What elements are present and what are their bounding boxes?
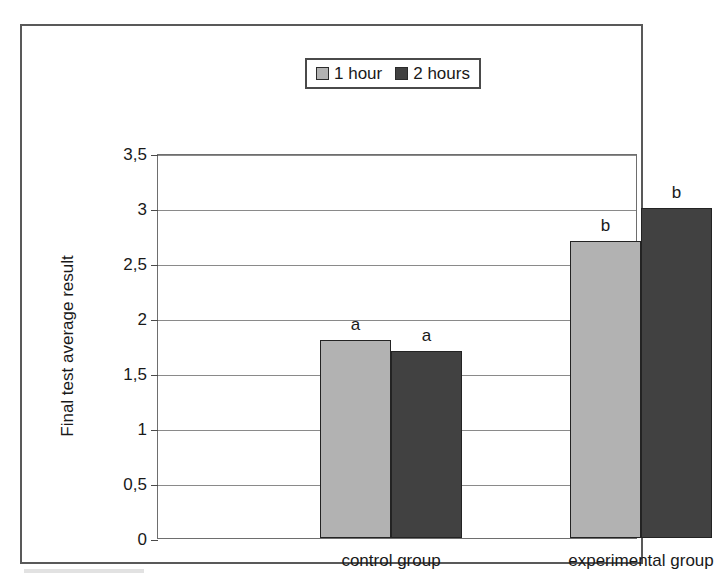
legend-entry-2-hours: 2 hours	[395, 65, 470, 82]
y-axis-tick	[151, 485, 158, 486]
gridline	[158, 155, 636, 156]
y-axis-tick-label: 0,5	[123, 475, 147, 495]
y-axis-tick-label: 1	[138, 420, 147, 440]
bar-annotation: a	[351, 315, 360, 335]
y-axis-tick-label: 2,5	[123, 255, 147, 275]
x-axis-category-label: experimental group	[568, 551, 714, 571]
plot-area: 00,511,522,533,5aacontrol groupbbexperim…	[157, 154, 637, 539]
gridline	[158, 210, 636, 211]
bar-annotation: a	[422, 326, 431, 346]
bar-annotation: b	[672, 183, 681, 203]
y-axis-tick	[151, 375, 158, 376]
y-axis-tick-label: 0	[138, 530, 147, 550]
scan-artifact	[24, 569, 144, 573]
y-axis-tick-label: 1,5	[123, 365, 147, 385]
y-axis-tick	[151, 210, 158, 211]
bar-experimental-group-2-hours	[641, 208, 712, 538]
x-axis-category-label: control group	[341, 551, 440, 571]
legend-swatch-1-hour	[316, 67, 329, 80]
y-axis-title: Final test average result	[58, 216, 78, 476]
gridline	[158, 265, 636, 266]
y-axis-tick	[151, 265, 158, 266]
y-axis-tick	[151, 540, 158, 541]
bar-control-group-1-hour	[320, 340, 391, 538]
legend-swatch-2-hours	[395, 67, 408, 80]
y-axis-tick	[151, 430, 158, 431]
legend-entry-1-hour: 1 hour	[316, 65, 382, 82]
chart-legend: 1 hour 2 hours	[305, 58, 481, 89]
y-axis-tick-label: 2	[138, 310, 147, 330]
gridline	[158, 320, 636, 321]
legend-label-2-hours: 2 hours	[413, 65, 470, 82]
bar-control-group-2-hours	[391, 351, 462, 538]
y-axis-tick	[151, 320, 158, 321]
y-axis-tick	[151, 155, 158, 156]
legend-label-1-hour: 1 hour	[334, 65, 382, 82]
bar-annotation: b	[601, 216, 610, 236]
bar-experimental-group-1-hour	[570, 241, 641, 538]
y-axis-tick-label: 3	[138, 200, 147, 220]
figure-frame: 1 hour 2 hours Final test average result…	[20, 24, 643, 564]
y-axis-tick-label: 3,5	[123, 145, 147, 165]
